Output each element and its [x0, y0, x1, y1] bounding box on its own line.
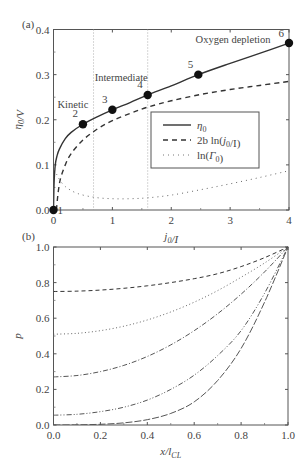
data-point-label: 6	[279, 27, 285, 39]
y-tick-label: 0.3	[36, 69, 50, 81]
data-point-marker	[144, 91, 152, 99]
x-tick-label: 0	[51, 214, 57, 226]
plot-frame	[54, 247, 289, 425]
region-label: Intermediate	[95, 72, 148, 83]
x-tick-label: 0.8	[234, 429, 248, 441]
y-tick-label: 0.2	[36, 114, 50, 126]
series-line-dashed	[54, 247, 289, 292]
y-axis-label: η0/V	[11, 109, 26, 130]
data-point-marker	[285, 39, 293, 47]
y-tick-label: 0.4	[36, 348, 50, 360]
panel-label: (a)	[22, 18, 35, 31]
figure: (a)012340.00.10.20.30.4j0/Iη0/V123456Kin…	[0, 0, 306, 475]
y-tick-label: 1.0	[36, 241, 50, 253]
x-tick-label: 3	[227, 214, 233, 226]
region-label: Oxygen depletion	[196, 34, 272, 45]
data-point-label: 1	[58, 204, 64, 216]
x-axis-label: x/lCL	[159, 445, 181, 460]
data-point-marker	[49, 206, 57, 214]
x-tick-label: 4	[286, 214, 292, 226]
x-tick-label: 2	[169, 214, 175, 226]
data-point-marker	[108, 106, 116, 114]
panel-label: (b)	[22, 230, 35, 243]
data-point-marker	[79, 120, 87, 128]
y-tick-label: 0.0	[36, 419, 50, 431]
y-axis-label: p	[11, 333, 23, 340]
panel-b-p-vs-position: (b)0.00.20.40.60.81.00.00.20.40.60.81.0x…	[11, 230, 296, 460]
series-line-dotted	[55, 169, 289, 198]
x-tick-label: 0.2	[94, 429, 108, 441]
plot-area	[54, 247, 289, 425]
region-label: Kinetic	[57, 99, 88, 110]
x-axis-label: j0/I	[162, 230, 179, 245]
x-tick-label: 1	[110, 214, 116, 226]
chart-canvas: (a)012340.00.10.20.30.4j0/Iη0/V123456Kin…	[0, 0, 306, 475]
series-line-longdash	[54, 247, 289, 425]
series-line-dashdotdot	[54, 247, 289, 415]
y-tick-label: 0.2	[36, 383, 50, 395]
legend: η02b ln(j0/I)ln(Γ0)	[151, 112, 259, 168]
y-tick-label: 0.6	[36, 312, 50, 324]
y-tick-label: 0.0	[36, 204, 50, 216]
data-point-marker	[194, 70, 202, 78]
x-tick-label: 0.4	[140, 429, 154, 441]
x-tick-label: 1.0	[281, 429, 295, 441]
panel-a-eta-vs-current: (a)012340.00.10.20.30.4j0/Iη0/V123456Kin…	[11, 18, 294, 245]
y-tick-label: 0.4	[36, 24, 50, 36]
data-point-label: 3	[102, 93, 108, 105]
y-tick-label: 0.8	[36, 277, 50, 289]
y-tick-label: 0.1	[36, 159, 50, 171]
x-tick-label: 0.6	[187, 429, 201, 441]
data-point-label: 5	[188, 58, 194, 70]
